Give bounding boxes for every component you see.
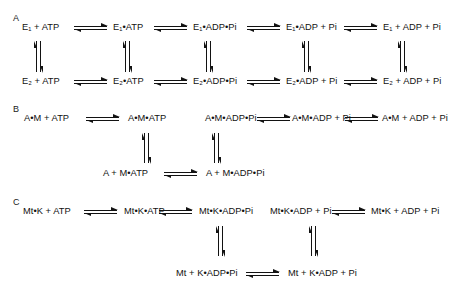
term-a-top-5: E₁ + ADP + Pi xyxy=(383,22,441,33)
term-a-bottom-5: E₂ + ADP + Pi xyxy=(383,76,441,87)
term-a-bottom-2: E₂•ATP xyxy=(113,76,144,87)
term-c-bottom-2: Mt + K•ADP + Pi xyxy=(288,268,357,279)
equilibrium-arrow-c-top-3 xyxy=(332,208,365,217)
equilibrium-arrow-c-vertical-2 xyxy=(310,226,318,256)
equilibrium-arrow-a-top-3 xyxy=(247,24,280,33)
equilibrium-arrow-b-top-3 xyxy=(345,115,378,124)
equilibrium-arrow-a-vertical-3 xyxy=(205,41,213,72)
equilibrium-arrow-a-top-4 xyxy=(344,24,377,33)
term-b-top-3: A•M•ADP•Pi xyxy=(205,113,257,124)
equilibrium-arrow-a-bottom-1 xyxy=(74,78,107,87)
equilibrium-arrow-b-bottom-1 xyxy=(164,170,197,179)
equilibrium-arrow-c-top-1 xyxy=(84,208,117,217)
term-a-top-2: E₁•ATP xyxy=(113,22,143,33)
equilibrium-arrow-a-vertical-4 xyxy=(303,41,311,72)
term-c-top-4: Mt•K•ADP + Pi xyxy=(270,206,332,217)
term-b-top-1: A•M + ATP xyxy=(24,113,69,124)
term-b-top-4: A•M•ADP + Pi xyxy=(292,113,351,124)
equilibrium-arrow-c-bottom-1 xyxy=(246,270,279,279)
equilibrium-arrow-b-top-2 xyxy=(257,115,290,124)
equilibrium-arrow-a-bottom-3 xyxy=(247,78,280,87)
term-a-bottom-1: E₂ + ATP xyxy=(22,76,60,87)
equilibrium-arrow-b-top-1 xyxy=(86,115,119,124)
equilibrium-arrow-a-vertical-2 xyxy=(124,41,132,72)
term-c-top-3: Mt•K•ADP•Pi xyxy=(199,206,253,217)
panel-letter-c: C xyxy=(13,197,20,207)
term-a-bottom-4: E₂•ADP + Pi xyxy=(286,76,337,87)
term-c-bottom-1: Mt + K•ADP•Pi xyxy=(176,268,238,279)
term-a-bottom-3: E₂•ADP•Pi xyxy=(193,76,237,87)
equilibrium-arrow-a-top-1 xyxy=(74,24,107,33)
term-b-bottom-2: A + M•ADP•Pi xyxy=(206,168,265,179)
term-b-top-5: A•M + ADP + Pi xyxy=(382,113,448,124)
term-a-top-1: E₁ + ATP xyxy=(22,22,59,33)
equilibrium-arrow-c-top-2 xyxy=(159,208,192,217)
equilibrium-arrow-a-vertical-5 xyxy=(399,41,407,72)
equilibrium-arrow-b-vertical-2 xyxy=(213,133,221,163)
equilibrium-arrow-c-vertical-1 xyxy=(217,226,225,256)
term-c-top-1: Mt•K + ATP xyxy=(23,206,71,217)
term-a-top-3: E₁•ADP•Pi xyxy=(193,22,237,33)
equilibrium-arrow-a-top-2 xyxy=(154,24,187,33)
term-b-top-2: A•M•ATP xyxy=(128,113,166,124)
term-b-bottom-1: A + M•ATP xyxy=(103,168,148,179)
term-c-top-5: Mt•K + ADP + Pi xyxy=(371,206,439,217)
term-a-top-4: E₁•ADP + Pi xyxy=(286,22,337,33)
equilibrium-arrow-a-bottom-2 xyxy=(154,78,187,87)
panel-letter-a: A xyxy=(13,13,19,23)
equilibrium-arrow-b-vertical-1 xyxy=(143,133,151,163)
equilibrium-arrow-a-bottom-4 xyxy=(344,78,377,87)
diagram-canvas: A E₁ + ATP E₁•ATP E₁•ADP•Pi E₁•ADP + Pi … xyxy=(0,0,467,291)
panel-letter-b: B xyxy=(13,104,19,114)
equilibrium-arrow-a-vertical-1 xyxy=(35,41,43,72)
